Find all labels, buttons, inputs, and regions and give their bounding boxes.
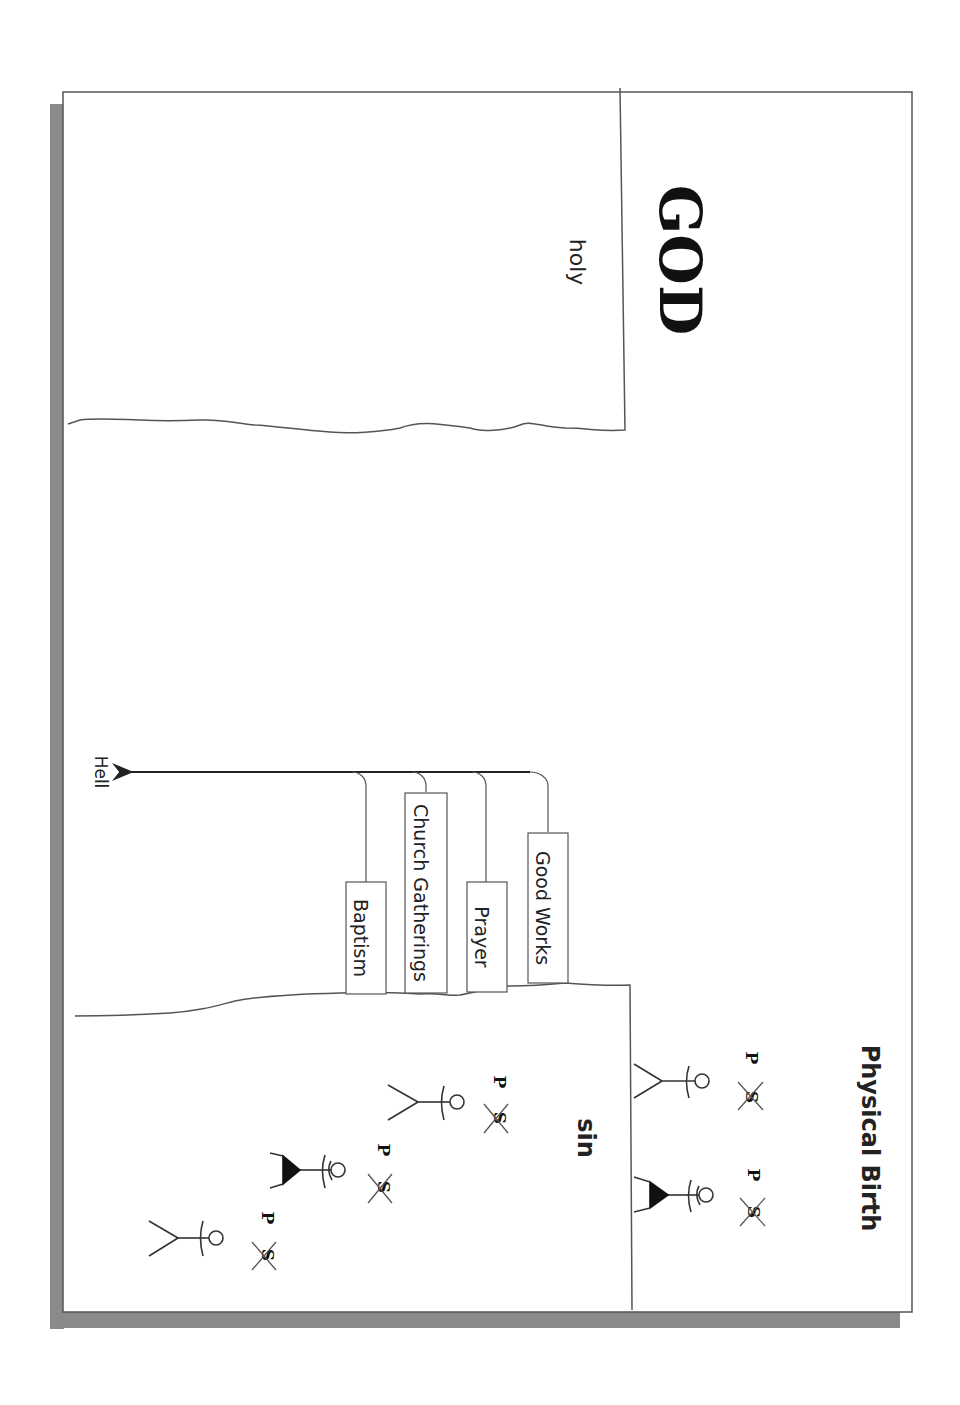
s-mark: S: [744, 1206, 764, 1218]
work-label-prayer: Prayer: [471, 906, 493, 968]
physical-birth-label: Physical Birth: [856, 1045, 884, 1232]
p-mark: P: [258, 1212, 278, 1225]
work-box-church-gatherings: Church Gatherings: [405, 793, 447, 993]
p-mark: P: [490, 1076, 510, 1089]
work-box-good-works: Good Works: [528, 833, 568, 983]
work-label-baptism: Baptism: [350, 899, 372, 977]
p-mark: P: [742, 1052, 762, 1065]
p-mark: P: [374, 1144, 394, 1157]
sin-label: sin: [572, 1118, 600, 1158]
work-box-prayer: Prayer: [467, 882, 507, 992]
holy-label: holy: [565, 239, 590, 286]
work-label-church-gatherings: Church Gatherings: [410, 804, 432, 982]
hell-label: Hell: [91, 756, 111, 789]
gospel-diagram: GOD holy Physical Birth sin Good Works P…: [0, 0, 960, 1405]
god-title: GOD: [646, 185, 714, 335]
work-box-baptism: Baptism: [346, 882, 386, 994]
p-mark: P: [744, 1169, 764, 1182]
work-label-good-works: Good Works: [532, 851, 554, 965]
